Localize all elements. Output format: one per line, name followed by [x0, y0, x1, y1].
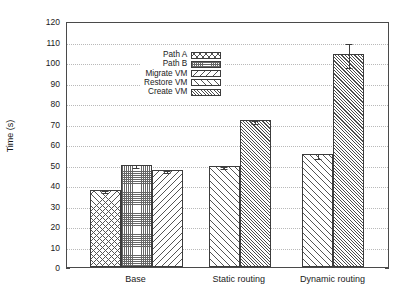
y-tick-label: 10	[30, 244, 60, 253]
y-tick-label: 60	[30, 141, 60, 150]
bar	[240, 120, 271, 267]
bar	[302, 154, 333, 267]
y-tick-mark	[66, 268, 70, 269]
error-bar-cap	[314, 154, 321, 155]
legend-item: Restore VM	[144, 79, 221, 88]
error-bar-cap	[345, 68, 352, 69]
x-group-label: Base	[125, 274, 146, 284]
error-bar-cap	[345, 44, 352, 45]
y-tick-label: 30	[30, 203, 60, 212]
bar	[90, 190, 121, 267]
legend-label: Create VM	[148, 88, 187, 96]
legend-swatch	[191, 61, 221, 68]
bar	[333, 54, 364, 267]
y-tick-label: 100	[30, 59, 60, 68]
error-bar-cap	[164, 173, 171, 174]
legend-label: Path B	[163, 60, 188, 68]
y-tick-label: 0	[30, 264, 60, 273]
x-group-label: Dynamic routing	[300, 274, 365, 284]
legend-swatch	[191, 79, 221, 86]
error-bar-cap	[252, 124, 259, 125]
error-bar-cap	[221, 167, 228, 168]
error-bar-cap	[133, 165, 140, 166]
y-tick-label: 50	[30, 162, 60, 171]
gridline	[67, 44, 388, 45]
error-bar-cap	[221, 169, 228, 170]
error-bar-cap	[102, 191, 109, 192]
legend-swatch	[191, 89, 221, 96]
y-tick-label: 90	[30, 80, 60, 89]
y-tick-label: 120	[30, 18, 60, 27]
error-bar-cap	[252, 121, 259, 122]
y-tick-label: 20	[30, 223, 60, 232]
error-bar-cap	[314, 159, 321, 160]
y-tick-label: 80	[30, 100, 60, 109]
bar	[152, 170, 183, 267]
legend: Path APath BMigrate VMRestore VMCreate V…	[141, 49, 224, 99]
bar-chart: Time (s) 0102030405060708090100110120 Pa…	[0, 0, 418, 308]
legend-item: Migrate VM	[144, 69, 221, 78]
x-group-label: Static routing	[213, 274, 266, 284]
y-tick-label: 40	[30, 182, 60, 191]
legend-item: Create VM	[144, 88, 221, 97]
y-tick-mark	[385, 268, 389, 269]
y-tick-label: 70	[30, 121, 60, 130]
legend-label: Migrate VM	[145, 70, 187, 78]
y-tick-label: 110	[30, 39, 60, 48]
bar	[121, 165, 152, 268]
bar	[209, 166, 240, 267]
error-bar-cap	[133, 168, 140, 169]
error-bar	[349, 44, 350, 69]
legend-label: Restore VM	[144, 79, 187, 87]
legend-label: Path A	[163, 51, 187, 59]
y-axis-label: Time (s)	[5, 106, 15, 166]
legend-item: Path A	[144, 51, 221, 60]
legend-swatch	[191, 70, 221, 77]
legend-swatch	[191, 52, 221, 59]
plot-area: Path APath BMigrate VMRestore VMCreate V…	[66, 22, 389, 268]
error-bar-cap	[164, 171, 171, 172]
legend-item: Path B	[144, 60, 221, 69]
error-bar-cap	[102, 193, 109, 194]
